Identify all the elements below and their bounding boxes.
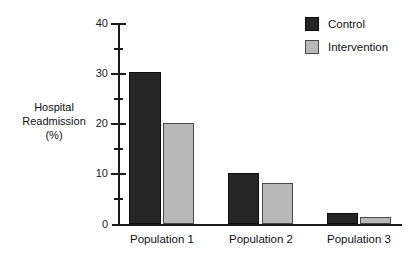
bar-chart: 40 30 20 10 0 Hospital Readmission (%) (0, 0, 418, 265)
bar-intervention-population-1 (163, 123, 194, 224)
legend-item-control: Control (305, 14, 388, 34)
y-tick-20 (111, 123, 126, 125)
x-category-label-population-2: Population 2 (220, 232, 302, 246)
y-tick-label-30-wrap: 30 (80, 68, 108, 79)
legend-item-intervention: Intervention (305, 37, 388, 57)
legend-label-intervention: Intervention (328, 41, 388, 54)
y-tick-label-10-wrap: 10 (80, 168, 108, 179)
y-tick-label-0: 0 (82, 219, 108, 230)
y-minor-tick-15 (114, 148, 123, 150)
bar-intervention-population-3 (360, 217, 391, 224)
y-axis-title-line-3: (%) (22, 128, 86, 142)
bar-intervention-population-2 (262, 183, 293, 224)
y-tick-40 (111, 23, 126, 25)
y-axis-title-line-1: Hospital (22, 100, 86, 114)
y-tick-label-30: 30 (82, 68, 108, 79)
legend: Control Intervention (305, 14, 388, 60)
y-tick-label-40: 40 (82, 18, 108, 29)
y-tick-label-10: 10 (82, 168, 108, 179)
legend-label-control: Control (328, 18, 365, 31)
bar-control-population-1 (129, 72, 161, 224)
y-tick-10 (111, 173, 126, 175)
y-minor-tick-5 (114, 198, 123, 200)
x-category-label-population-3: Population 3 (318, 232, 400, 246)
y-minor-tick-35 (114, 48, 123, 50)
x-axis-line (112, 224, 402, 226)
y-axis-title: Hospital Readmission (%) (22, 100, 86, 142)
bar-control-population-3 (327, 213, 358, 224)
y-tick-label-40-wrap: 40 (80, 18, 108, 29)
bar-control-population-2 (228, 173, 259, 224)
y-tick-30 (111, 73, 126, 75)
y-tick-label-0-wrap: 0 (80, 219, 108, 230)
legend-swatch-control-icon (305, 17, 319, 31)
y-minor-tick-25 (114, 98, 123, 100)
legend-swatch-intervention-icon (305, 40, 319, 54)
x-category-label-population-1: Population 1 (121, 232, 203, 246)
y-axis-title-line-2: Readmission (22, 114, 86, 128)
